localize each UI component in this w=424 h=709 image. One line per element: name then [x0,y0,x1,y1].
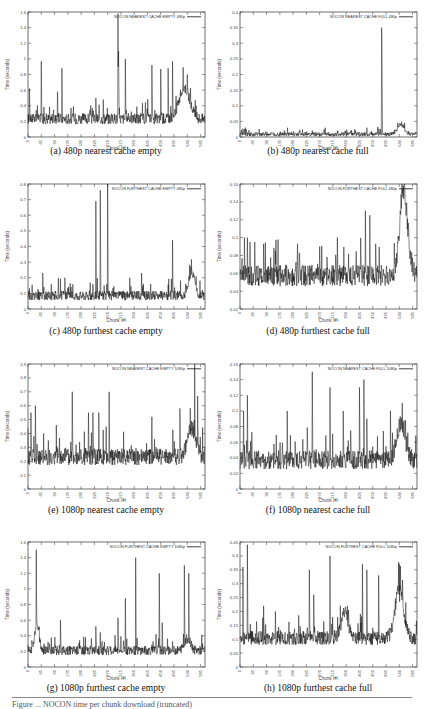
y-tick-label: 0.12 [230,393,239,398]
legend-label: NOCON NEAREST CACHE FULL 480p [330,15,397,19]
chart-panel-d: 0.020.040.060.080.10.120.140.16045901351… [212,172,424,322]
x-tick-label: 405 [145,311,150,318]
x-axis-label: Chunk (#) [319,318,339,322]
y-tick-label: 0.14 [230,199,239,204]
data-series-line [240,372,417,469]
x-tick-label: 0 [25,669,30,672]
data-series-line [28,550,205,655]
y-axis-label: Time (seconds) [5,411,10,442]
x-tick-label: 360 [343,491,348,498]
subfigure-caption-f: (f) 1080p nearest cache full [212,505,424,515]
x-tick-label: 405 [357,491,362,498]
x-tick-label: 45 [38,311,43,316]
legend-label: NOCON FURTHEST CACHE FULL 1080p [326,545,397,549]
legend-label: NOCON NEAREST CACHE EMPTY 1080p [112,367,185,371]
y-tick-label: 0.1 [232,637,238,642]
x-tick-label: 225 [304,491,309,498]
y-tick-label: 0.12 [230,217,239,222]
x-tick-label: 360 [343,669,348,676]
y-tick-label: 0.35 [230,25,239,30]
y-tick-label: 0.04 [230,289,239,294]
data-series-line [240,184,417,286]
y-axis-label: Time (seconds) [5,231,10,262]
x-tick-label: 540 [397,669,402,676]
x-tick-label: 360 [131,491,136,498]
x-axis-label: Chunk (#) [107,676,127,680]
x-tick-label: 495 [383,669,388,676]
y-tick-label: 0.02 [230,307,239,312]
y-tick-label: 0.4 [20,103,26,108]
x-tick-label: 180 [78,669,83,676]
x-tick-label: 0 [25,311,30,314]
legend-label: NOCON FURTHEST CACHE EMPTY 480p [112,187,185,191]
x-tick-label: 0 [25,491,30,494]
y-tick-label: 1.6 [20,10,26,15]
y-tick-label: 0.25 [230,595,239,600]
line-chart-d: 0.020.040.060.080.10.120.140.16045901351… [212,172,424,322]
y-tick-label: 0.8 [20,72,26,77]
x-tick-label: 450 [370,669,375,676]
footer-rule [12,697,412,698]
x-axis-label: Chunk (#) [107,318,127,322]
x-tick-label: 90 [52,669,57,674]
subfigure-caption-d: (d) 480p furthest cache full [212,326,424,336]
y-tick-label: 0.06 [230,271,239,276]
y-tick-label: 0.08 [230,253,239,258]
y-tick-label: 0.4 [232,553,238,558]
y-tick-label: 1.2 [20,41,26,46]
y-tick-label: 0.3 [20,260,26,265]
subfigure-caption-a: (a) 480p nearest cache empty [0,146,212,156]
y-tick-label: 0 [24,307,27,312]
y-tick-label: 0 [236,135,239,140]
y-tick-label: 0 [24,135,27,140]
legend-label: NOCON FURTHEST CACHE EMPTY 1080p [110,545,185,549]
y-tick-label: 0.2 [232,72,238,77]
x-tick-label: 90 [264,139,269,144]
y-tick-label: 0.7 [20,389,26,394]
y-axis-label: Time (seconds) [217,589,222,620]
y-axis-label: Time (seconds) [217,231,222,262]
y-tick-label: 0.5 [20,417,26,422]
x-tick-label: 0 [25,139,30,142]
line-chart-h: 00.050.10.150.20.250.30.350.40.450459013… [212,530,424,680]
chart-panel-c: 00.10.20.30.40.50.60.70.8045901351802252… [0,172,212,322]
y-tick-label: 0 [24,665,27,670]
x-tick-label: 45 [250,491,255,496]
x-tick-label: 90 [264,491,269,496]
y-tick-label: 1.4 [20,555,26,560]
legend-label: NOCON NEAREST CACHE EMPTY 480p [114,15,185,19]
x-tick-label: 585 [410,491,415,498]
x-tick-label: 585 [410,311,415,318]
y-tick-label: 0.16 [230,182,239,187]
y-tick-label: 0.16 [230,362,239,367]
y-tick-label: 0.3 [20,445,26,450]
y-tick-label: 1 [24,56,27,61]
x-tick-label: 90 [52,139,57,144]
x-tick-label: 540 [397,491,402,498]
x-tick-label: 585 [410,669,415,676]
x-tick-label: 360 [131,311,136,318]
x-tick-label: 45 [250,311,255,316]
chart-panel-b: 00.050.10.150.20.250.30.350.404590135180… [212,0,424,150]
figure-footer-partial: Figure ... NOCON time per chunk download… [12,700,192,709]
x-tick-label: 135 [65,311,70,318]
y-tick-label: 0.2 [232,609,238,614]
x-tick-label: 180 [78,491,83,498]
x-axis-label: Chunk (#) [107,498,127,502]
x-tick-label: 585 [198,491,203,498]
x-tick-label: 135 [65,491,70,498]
y-tick-label: 0.2 [20,459,26,464]
y-tick-label: 0.1 [20,291,26,296]
line-chart-c: 00.10.20.30.40.50.60.70.8045901351802252… [0,172,212,322]
y-tick-label: 0 [236,487,239,492]
x-tick-label: 180 [290,311,295,318]
x-tick-label: 495 [383,491,388,498]
y-tick-label: 0.06 [230,440,239,445]
y-tick-label: 0.08 [230,424,239,429]
data-series-line [240,545,417,645]
x-tick-label: 225 [304,669,309,676]
x-tick-label: 90 [52,491,57,496]
line-chart-b: 00.050.10.150.20.250.30.350.404590135180… [212,0,424,150]
x-tick-label: 540 [185,669,190,676]
plot-frame [240,184,417,309]
